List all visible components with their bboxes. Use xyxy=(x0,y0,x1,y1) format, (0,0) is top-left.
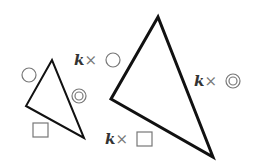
k-square-symbol xyxy=(137,132,152,146)
square-symbol xyxy=(33,123,48,137)
k-variable: k xyxy=(105,130,115,148)
times-sign: × xyxy=(204,72,217,90)
label-k-double-circle: k× xyxy=(194,74,217,89)
times-sign: × xyxy=(84,51,97,69)
circle-symbol xyxy=(22,68,36,82)
double-circle-symbol-outer xyxy=(72,89,86,103)
k-variable: k xyxy=(194,72,204,90)
k-double-circle-symbol-inner xyxy=(229,77,237,85)
k-variable: k xyxy=(74,51,84,69)
k-circle-symbol xyxy=(106,53,120,67)
double-circle-symbol-inner xyxy=(75,92,83,100)
times-sign: × xyxy=(115,130,128,148)
k-double-circle-symbol-outer xyxy=(226,74,240,88)
label-k-circle: k× xyxy=(74,53,97,68)
diagram-canvas xyxy=(0,0,259,163)
label-k-square: k× xyxy=(105,132,128,147)
